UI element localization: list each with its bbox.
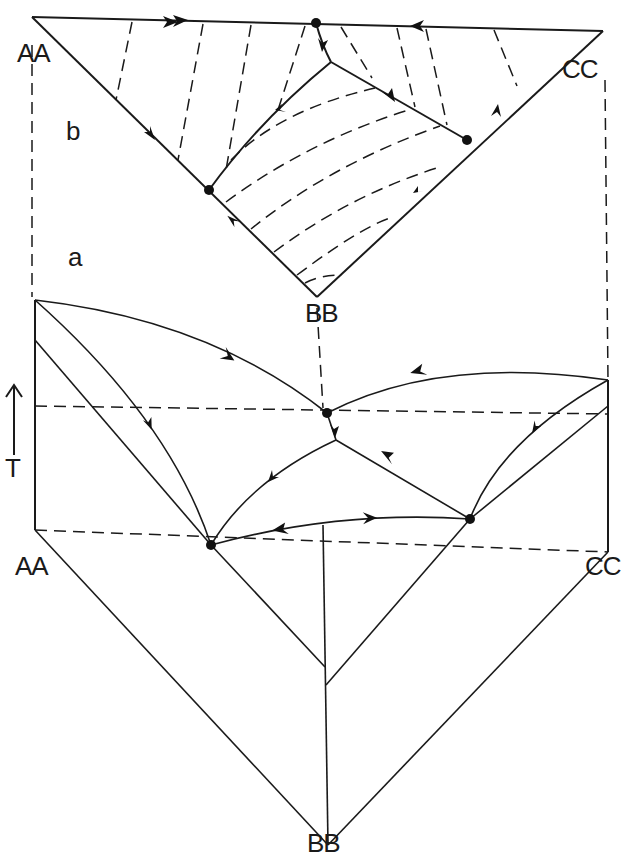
panel-a-prism [6,300,608,845]
vertex-label-bb-bottom: BB [307,830,340,852]
vertex-label-cc-top: CC [562,56,598,82]
vertex-label-aa-top: AA [17,40,50,66]
panel-label-b: b [66,118,79,144]
panel-label-a: a [68,244,81,270]
vertex-label-cc-bottom: CC [585,553,621,579]
axis-label-t: T [5,455,20,481]
projection-lines [32,45,608,408]
panel-b-projection [32,15,603,297]
vertex-label-aa-bottom: AA [15,553,48,579]
vertex-label-bb-top: BB [305,300,338,326]
